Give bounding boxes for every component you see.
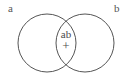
plus-icon: +: [51, 40, 81, 52]
set-label-a: a: [8, 3, 13, 14]
intersection-region-label: ab +: [51, 29, 81, 52]
venn-diagram: a b ab +: [0, 0, 134, 78]
set-label-b: b: [114, 3, 120, 14]
